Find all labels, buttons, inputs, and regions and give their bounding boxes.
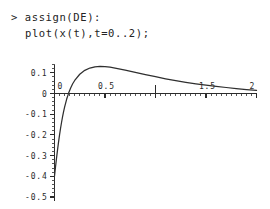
- y-tick-label: 0: [42, 90, 48, 99]
- plot-output[interactable]: 00.51.52 0.10-0.1-0.2-0.3-0.4-0.5: [0, 55, 270, 209]
- plot-canvas: 00.51.52 0.10-0.1-0.2-0.3-0.4-0.5: [0, 55, 270, 209]
- y-tick-label: -0.3: [25, 152, 47, 161]
- y-tick-label: -0.5: [25, 193, 47, 202]
- y-tick-label: -0.4: [25, 172, 47, 181]
- x-tick-label: 2: [250, 82, 256, 91]
- screenshot-root: > assign(DE): plot(x(t),t=0..2); 00.51.5…: [0, 0, 270, 209]
- x-axis-tick-labels: 00.51.52: [58, 82, 256, 91]
- y-axis-major-ticks: [50, 73, 55, 197]
- y-tick-label: 0.1: [31, 69, 48, 78]
- solution-curve: [55, 66, 257, 176]
- input-line-assign[interactable]: > assign(DE):: [11, 11, 101, 23]
- cas-console[interactable]: > assign(DE): plot(x(t),t=0..2);: [0, 0, 270, 55]
- y-tick-label: -0.2: [25, 131, 47, 140]
- y-tick-label: -0.1: [25, 110, 47, 119]
- y-axis-tick-labels: 0.10-0.1-0.2-0.3-0.4-0.5: [25, 69, 47, 202]
- x-tick-label: 0.5: [98, 82, 115, 91]
- plot-axes: [51, 65, 257, 201]
- x-tick-label: 0: [58, 82, 64, 91]
- input-line-plot[interactable]: plot(x(t),t=0..2);: [25, 27, 150, 39]
